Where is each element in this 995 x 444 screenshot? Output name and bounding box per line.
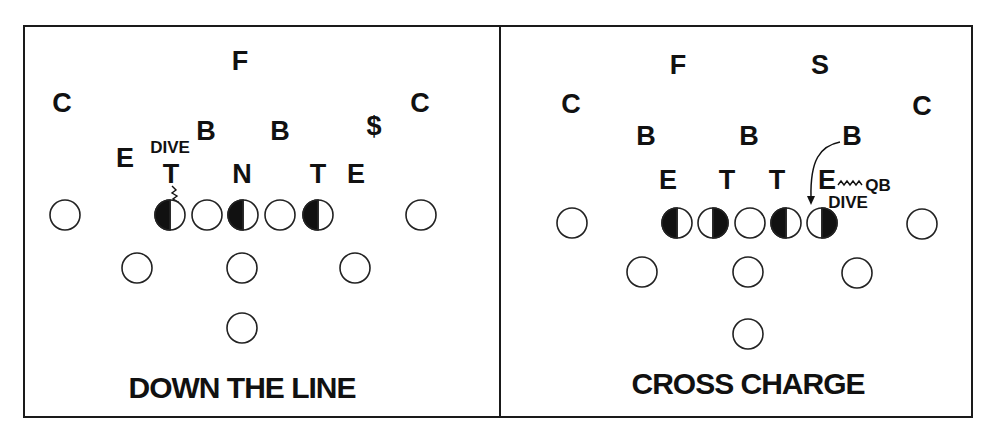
defender-tackle-left: T	[163, 159, 180, 189]
offensive-line	[557, 208, 937, 239]
defender-end-left: E	[116, 143, 134, 173]
dive-annotation: DIVE	[828, 193, 868, 212]
defender-tackle-right: T	[310, 159, 327, 189]
defender-corner-right: C	[410, 88, 430, 118]
player-circle	[192, 200, 222, 230]
player-circle-half-filled	[698, 208, 728, 238]
defender-backer-left: B	[636, 121, 656, 151]
defender-tackle-right: T	[769, 165, 786, 195]
defender-backer-right: B	[270, 116, 290, 146]
player-circle	[406, 200, 436, 230]
defender-end-right: E	[347, 159, 365, 189]
qb-annotation: QB	[865, 176, 891, 195]
defender-backer-middle: B	[739, 121, 759, 151]
caption-cross-charge: CROSS CHARGE	[631, 367, 864, 400]
panel-cross-charge: F S C C B B B E T T E QB DIVE	[557, 50, 937, 400]
defender-labels: F S C C B B B E T T E	[561, 50, 932, 195]
offensive-backs	[627, 257, 872, 349]
player-circle-half-filled	[807, 208, 837, 238]
defender-end-left: E	[659, 165, 677, 195]
defender-corner-left: C	[52, 88, 72, 118]
defender-corner-left: C	[561, 89, 581, 119]
player-circle-half-filled	[228, 200, 258, 230]
player-circle	[50, 200, 80, 230]
defender-tackle-left: T	[719, 165, 736, 195]
defensive-stunts-diagram: C F C B B $ E T N T E DIVE	[0, 0, 995, 444]
player-circle	[265, 200, 295, 230]
defender-dollar: $	[366, 111, 381, 141]
player-circle-half-filled	[662, 208, 692, 238]
defender-labels: C F C B B $ E T N T E	[52, 46, 430, 189]
defender-strong-safety: S	[811, 50, 829, 80]
player-circle	[735, 208, 765, 238]
player-circle	[227, 313, 257, 343]
player-circle	[557, 208, 587, 238]
player-circle	[842, 258, 872, 288]
defender-nose: N	[232, 159, 252, 189]
offensive-backs	[122, 253, 370, 343]
player-circle	[733, 319, 763, 349]
player-circle	[907, 209, 937, 239]
defender-free-safety: F	[670, 50, 687, 80]
player-circle	[733, 257, 763, 287]
dive-annotation: DIVE	[150, 138, 190, 157]
offensive-line	[50, 200, 436, 230]
defender-end-right: E	[818, 165, 836, 195]
player-circle	[627, 257, 657, 287]
arrowhead-icon	[807, 196, 815, 205]
player-circle-half-filled	[303, 200, 333, 230]
defender-backer-left: B	[196, 116, 216, 146]
defender-corner-right: C	[912, 91, 932, 121]
player-circle-half-filled	[155, 200, 185, 230]
player-circle	[340, 253, 370, 283]
player-circle-half-filled	[771, 208, 801, 238]
player-circle	[122, 253, 152, 283]
player-circle	[227, 253, 257, 283]
panel-down-the-line: C F C B B $ E T N T E DIVE	[50, 46, 436, 404]
defender-backer-right: B	[842, 121, 862, 151]
caption-down-the-line: DOWN THE LINE	[129, 371, 356, 404]
qb-zigzag-line	[838, 181, 862, 185]
defender-free-safety: F	[232, 46, 249, 76]
